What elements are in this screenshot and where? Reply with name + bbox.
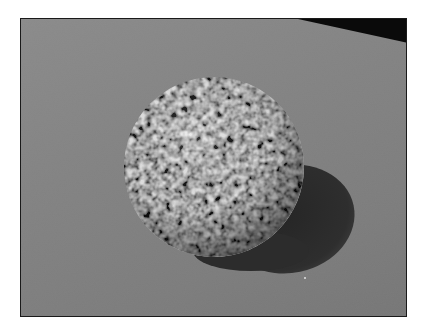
speck: [304, 277, 306, 279]
rendered-scene: [21, 19, 407, 317]
image-frame: [20, 18, 407, 317]
